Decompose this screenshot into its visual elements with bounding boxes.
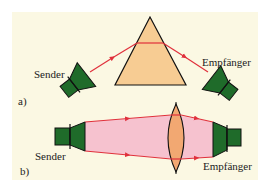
sender-a-label: Sender [34, 68, 65, 80]
receiver-b-body [227, 129, 241, 146]
sender-b-label: Sender [35, 150, 66, 162]
receiver-b-label: Empfänger [203, 160, 252, 172]
diagram: Sender Empfänger a) [0, 0, 270, 190]
sender-b-body [55, 128, 70, 145]
panel-b-label: b) [20, 165, 30, 178]
receiver-a-label: Empfänger [202, 56, 251, 68]
panel-a-label: a) [18, 95, 27, 108]
